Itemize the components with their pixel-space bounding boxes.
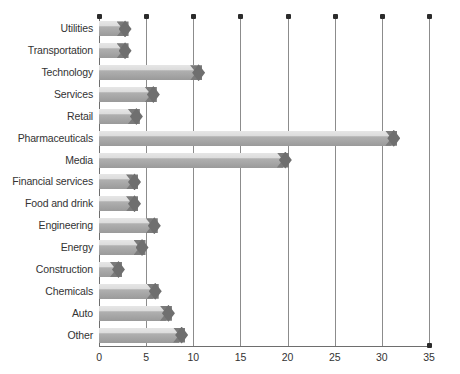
x-tick-label: 20: [268, 351, 308, 363]
bar: [99, 174, 132, 189]
bar-body: [99, 174, 132, 189]
bar-body: [99, 240, 140, 255]
bar: [99, 196, 132, 211]
chart-row: Services: [0, 84, 460, 106]
bar-body: [99, 131, 391, 146]
chart-row: Utilities: [0, 18, 460, 40]
category-label: Other: [0, 330, 93, 341]
bar-body: [99, 284, 153, 299]
category-label: Financial services: [0, 176, 93, 187]
bar: [99, 284, 153, 299]
category-label: Energy: [0, 242, 93, 253]
chart-row: Chemicals: [0, 280, 460, 302]
category-label: Utilities: [0, 23, 93, 34]
x-tick-label: 15: [220, 351, 260, 363]
bar-body: [99, 196, 132, 211]
bar: [99, 218, 152, 233]
bar: [99, 131, 391, 146]
chart-row: Transportation: [0, 40, 460, 62]
bar: [99, 65, 196, 80]
chart-row: Auto: [0, 302, 460, 324]
bar-body: [99, 87, 151, 102]
bar: [99, 240, 140, 255]
category-label: Engineering: [0, 220, 93, 231]
bar: [99, 87, 151, 102]
bar: [99, 328, 179, 343]
chart-row: Construction: [0, 259, 460, 281]
category-label: Retail: [0, 111, 93, 122]
chart-row: Energy: [0, 237, 460, 259]
category-label: Food and drink: [0, 198, 93, 209]
bar: [99, 109, 134, 124]
chart-row: Other: [0, 324, 460, 346]
x-tick-label: 30: [362, 351, 402, 363]
category-label: Construction: [0, 264, 93, 275]
bar-body: [99, 153, 283, 168]
bar-body: [99, 109, 134, 124]
chart-row: Engineering: [0, 215, 460, 237]
chart-row: Financial services: [0, 171, 460, 193]
bar-body: [99, 328, 179, 343]
chart-row: Media: [0, 149, 460, 171]
category-label: Transportation: [0, 45, 93, 56]
x-tick-label: 35: [409, 351, 449, 363]
category-label: Auto: [0, 308, 93, 319]
bar: [99, 21, 123, 36]
x-axis-end-dot: [427, 343, 432, 348]
chart-row: Retail: [0, 105, 460, 127]
bar-body: [99, 306, 166, 321]
category-label: Pharmaceuticals: [0, 133, 93, 144]
bar-body: [99, 65, 196, 80]
category-rows: UtilitiesTransportationTechnologyService…: [0, 18, 460, 346]
category-label: Technology: [0, 67, 93, 78]
chart-row: Food and drink: [0, 193, 460, 215]
x-axis-line: [99, 346, 429, 347]
category-label: Services: [0, 89, 93, 100]
chart-row: Pharmaceuticals: [0, 127, 460, 149]
x-tick-label: 5: [126, 351, 166, 363]
chart-row: Technology: [0, 62, 460, 84]
bar: [99, 43, 123, 58]
x-axis-tick-labels: 05101520253035: [0, 351, 460, 367]
category-label: Chemicals: [0, 286, 93, 297]
x-tick-label: 25: [315, 351, 355, 363]
bar: [99, 306, 166, 321]
bar: [99, 262, 116, 277]
x-tick-label: 0: [79, 351, 119, 363]
bar-chart: UtilitiesTransportationTechnologyService…: [0, 0, 460, 374]
x-tick-label: 10: [173, 351, 213, 363]
category-label: Media: [0, 155, 93, 166]
bar: [99, 153, 283, 168]
bar-body: [99, 218, 152, 233]
